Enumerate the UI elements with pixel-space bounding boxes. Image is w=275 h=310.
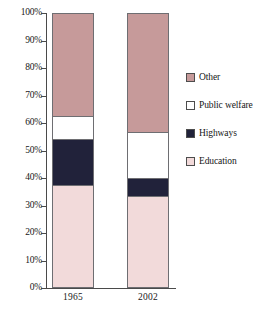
y-axis-tick-label: 40% — [0, 173, 42, 183]
bar-1965[interactable] — [52, 13, 94, 288]
y-axis-tick-mark — [41, 151, 47, 152]
y-axis-tick-mark — [41, 233, 47, 234]
y-axis-tick-mark — [41, 41, 47, 42]
y-axis-tick-label: 60% — [0, 118, 42, 128]
legend-label: Other — [199, 72, 220, 83]
bar-segment-1965-public-welfare[interactable] — [53, 116, 93, 139]
bar-segment-1965-other[interactable] — [53, 14, 93, 116]
y-axis-tick-label: 10% — [0, 256, 42, 266]
x-axis-tick-label: 1965 — [52, 292, 94, 303]
x-axis-tick-label: 2002 — [127, 292, 169, 303]
y-axis-tick-mark — [41, 261, 47, 262]
y-axis-tick-label: 50% — [0, 146, 42, 156]
bar-segment-2002-education[interactable] — [128, 196, 168, 289]
y-axis-tick-label: 80% — [0, 63, 42, 73]
y-axis-tick-mark — [41, 96, 47, 97]
y-axis-tick-label: 70% — [0, 91, 42, 101]
y-axis-tick-label: 100% — [0, 8, 42, 18]
y-axis-tick-mark — [41, 178, 47, 179]
legend-swatch-icon — [186, 129, 195, 138]
legend-label: Education — [199, 156, 237, 167]
y-axis-tick-label: 20% — [0, 228, 42, 238]
bar-2002[interactable] — [127, 13, 169, 288]
legend-label: Highways — [199, 128, 237, 139]
stacked-bar-chart: 0%10%20%30%40%50%60%70%80%90%100% 196520… — [0, 0, 275, 310]
y-axis-tick-label: 30% — [0, 201, 42, 211]
bar-segment-1965-education[interactable] — [53, 185, 93, 289]
y-axis-tick-label: 90% — [0, 36, 42, 46]
y-axis-tick-label: 0% — [0, 283, 42, 293]
y-axis-tick-mark — [41, 288, 47, 289]
bar-segment-1965-highways[interactable] — [53, 139, 93, 184]
y-axis-tick-mark — [41, 68, 47, 69]
y-axis-tick-mark — [41, 206, 47, 207]
x-axis-line — [46, 288, 176, 289]
bar-segment-2002-public-welfare[interactable] — [128, 132, 168, 177]
legend-swatch-icon — [186, 101, 195, 110]
legend-swatch-icon — [186, 157, 195, 166]
legend-label: Public welfare — [199, 100, 253, 111]
bar-segment-2002-other[interactable] — [128, 14, 168, 132]
legend-swatch-icon — [186, 73, 195, 82]
bar-segment-2002-highways[interactable] — [128, 178, 168, 196]
y-axis: 0%10%20%30%40%50%60%70%80%90%100% — [0, 0, 44, 310]
y-axis-tick-mark — [41, 13, 47, 14]
y-axis-tick-mark — [41, 123, 47, 124]
